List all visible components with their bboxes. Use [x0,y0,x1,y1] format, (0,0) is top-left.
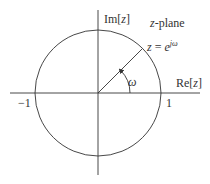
point-label: z = ejω [147,40,178,53]
tick-label-pos-one: 1 [166,97,172,109]
z-plane-diagram: Im[z] z-plane z = ejω ω Re[z] −1 1 [0,0,210,184]
plane-label: z-plane [150,17,185,29]
real-axis-label: Re[z] [176,77,202,89]
imaginary-axis-label: Im[z] [104,13,130,25]
tick-label-neg-one: −1 [18,97,31,109]
angle-label: ω [128,76,136,88]
